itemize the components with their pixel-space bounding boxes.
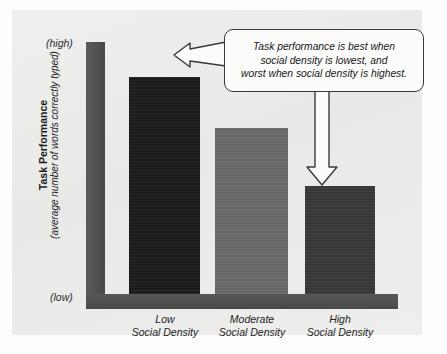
bar-high-social-density: [305, 186, 375, 294]
y-axis-low-label: (low): [50, 291, 73, 303]
y-axis-title-group: Task Performance (average number of word…: [32, 45, 66, 245]
category-label-line2: Social Density: [280, 326, 400, 339]
bar-texture: [305, 186, 375, 294]
annotation-line-2: social density is lowest, and: [241, 54, 407, 68]
bar-texture: [215, 128, 288, 294]
annotation-callout: Task performance is best when social den…: [224, 29, 424, 92]
bar-moderate-social-density: [215, 128, 288, 294]
y-axis-subtitle: (average number of words correctly typed…: [49, 51, 61, 239]
x-axis: [86, 294, 398, 309]
category-label-line1: High: [280, 313, 400, 326]
figure-panel: (high) (low) Task Performance (average n…: [12, 10, 422, 335]
y-axis-title: Task Performance: [37, 100, 49, 190]
annotation-callout-text: Task performance is best when social den…: [234, 40, 414, 81]
category-label-high: High Social Density: [280, 313, 400, 338]
annotation-line-3: worst when social density is highest.: [241, 67, 407, 81]
bar-low-social-density: [129, 77, 200, 294]
arrow-left-icon: [172, 36, 228, 72]
chart-screenshot: (high) (low) Task Performance (average n…: [0, 0, 447, 354]
arrow-down-icon: [302, 85, 342, 188]
annotation-line-1: Task performance is best when: [241, 40, 407, 54]
bar-texture: [129, 77, 200, 294]
